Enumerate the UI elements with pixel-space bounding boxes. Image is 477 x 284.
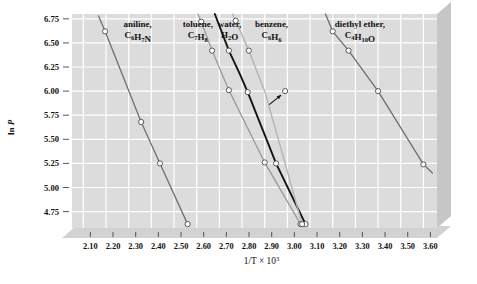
marker-toluene	[226, 88, 231, 93]
xtick-label-2.60: 2.60	[196, 242, 211, 251]
marker-diethyl-ether	[375, 89, 380, 94]
marker-toluene	[262, 160, 267, 165]
xtick-label-2.90: 2.90	[264, 242, 279, 251]
marker-toluene	[210, 48, 215, 53]
ytick-label-5.75: 5.75	[44, 110, 59, 120]
ytick-label-6.50: 6.50	[44, 38, 59, 48]
marker-diethyl-ether	[421, 162, 426, 167]
marker-diethyl-ether	[346, 48, 351, 53]
plot-background	[72, 14, 437, 228]
ytick-label-5.50: 5.50	[44, 134, 59, 144]
xtick-label-2.50: 2.50	[174, 242, 189, 251]
xtick-label-3.60: 3.60	[423, 242, 438, 251]
xtick-label-2.80: 2.80	[242, 242, 257, 251]
marker-water	[245, 89, 250, 94]
series-label-text: water,	[218, 19, 241, 29]
marker-aniline	[185, 222, 190, 227]
marker-benzene	[283, 89, 288, 94]
marker-water	[273, 161, 278, 166]
xtick-label-3.30: 3.30	[355, 242, 370, 251]
ytick-label-6.00: 6.00	[44, 86, 59, 96]
panel-right-face	[437, 2, 451, 228]
y-axis-ticks: 4.755.005.255.505.756.006.256.506.75	[44, 14, 69, 217]
x-axis-title-text: 1/T × 103	[244, 255, 280, 266]
marker-water	[226, 48, 231, 53]
marker-diethyl-ether	[330, 29, 335, 34]
ytick-label-6.25: 6.25	[44, 62, 59, 72]
marker-aniline	[157, 161, 162, 166]
series-label-text: toluene,	[183, 19, 213, 29]
xtick-label-2.70: 2.70	[219, 242, 234, 251]
series-label-text: benzene,	[255, 19, 288, 29]
series-label-text: aniline,	[124, 19, 152, 29]
xtick-label-3.10: 3.10	[310, 242, 325, 251]
xtick-label-3.00: 3.00	[287, 242, 302, 251]
marker-benzene	[246, 48, 251, 53]
ytick-label-5.25: 5.25	[44, 158, 59, 168]
xtick-label-3.50: 3.50	[400, 242, 415, 251]
marker-aniline	[139, 119, 144, 124]
series-label-text: diethyl ether,	[335, 19, 385, 29]
xtick-label-2.40: 2.40	[151, 242, 166, 251]
ytick-label-5.00: 5.00	[44, 183, 59, 193]
clausius-clapeyron-plot: aniline,C6H7Ntoluene,C7H8water,H2Obenzen…	[0, 0, 477, 284]
xtick-label-2.30: 2.30	[128, 242, 143, 251]
x-axis-title: 1/T × 103	[244, 255, 280, 266]
vapor-pressure-chart-figure: aniline,C6H7Ntoluene,C7H8water,H2Obenzen…	[0, 0, 477, 284]
xtick-label-3.40: 3.40	[378, 242, 393, 251]
ytick-label-4.75: 4.75	[44, 207, 59, 217]
marker-aniline	[103, 29, 108, 34]
xtick-label-3.20: 3.20	[332, 242, 347, 251]
ytick-label-6.75: 6.75	[44, 14, 59, 24]
xtick-label-2.20: 2.20	[106, 242, 121, 251]
y-axis-title: ln P	[6, 120, 16, 135]
marker-benzene	[300, 222, 305, 227]
xtick-label-2.10: 2.10	[83, 242, 98, 251]
